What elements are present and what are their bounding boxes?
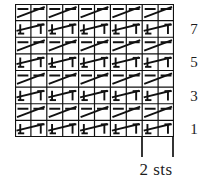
chart-page: 7531 2 sts — [0, 0, 211, 192]
chart-canvas — [15, 4, 174, 137]
row-number-7: 7 — [186, 22, 202, 37]
row-number-1: 1 — [186, 122, 202, 137]
row-number-3: 3 — [186, 89, 202, 104]
repeat-bracket — [138, 136, 178, 158]
repeat-caption: 2 sts — [111, 160, 201, 179]
stitch-chart-grid — [15, 4, 174, 137]
row-number-5: 5 — [186, 55, 202, 70]
